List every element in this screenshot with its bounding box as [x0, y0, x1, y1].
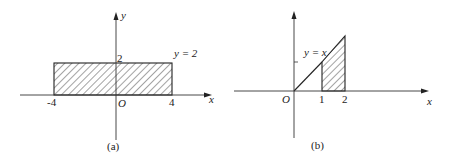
line-y-equals-x: [294, 62, 322, 91]
caption-b: (b): [311, 139, 324, 152]
y-axis-arrow-icon: [114, 12, 119, 20]
shaded-rectangle: [54, 63, 172, 95]
origin-label: O: [282, 93, 290, 105]
x-axis-label: x: [208, 93, 214, 105]
y-axis-label: y: [120, 9, 126, 21]
tick-y-2: 2: [117, 52, 123, 64]
tick-x-4: 4: [169, 96, 175, 108]
panel-b: y = x O 1 2 x (b): [234, 11, 432, 152]
curve-label: y = x: [303, 46, 327, 58]
x-axis-label: x: [426, 95, 432, 107]
shaded-trapezoid: [322, 36, 345, 91]
x-axis-arrow-icon: [421, 89, 429, 94]
figure: y x 2 y = 2 -4 O 4 (a) y = x O 1 2 x (b): [0, 0, 449, 166]
tick-x-1: 1: [319, 93, 325, 105]
caption-a: (a): [107, 140, 120, 153]
origin-label: O: [118, 97, 126, 109]
tick-x-2: 2: [342, 93, 348, 105]
tick-x-neg4: -4: [47, 96, 57, 108]
panel-a: y x 2 y = 2 -4 O 4 (a): [20, 9, 214, 153]
curve-label: y = 2: [173, 47, 198, 59]
y-axis-arrow-icon: [292, 11, 297, 19]
